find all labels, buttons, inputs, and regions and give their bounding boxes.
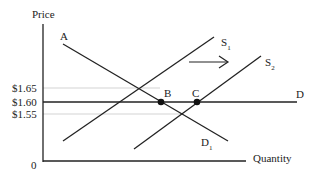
- price-tick-155: $1.55: [12, 108, 37, 120]
- point-c: [194, 99, 201, 106]
- price-tick-160: $1.60: [12, 96, 37, 108]
- shift-right-arrow-icon: [189, 56, 228, 68]
- supply-s1-label: S1: [221, 36, 231, 52]
- point-c-label: C: [192, 87, 199, 99]
- price-tick-165: $1.65: [12, 82, 37, 94]
- x-axis-label: Quantity: [253, 152, 292, 164]
- origin-label: 0: [31, 159, 37, 171]
- demand-curve-d1: [63, 44, 228, 141]
- horizontal-demand-label-d: D: [296, 88, 304, 100]
- demand-start-label-a: A: [60, 30, 68, 42]
- supply-s2-label: S2: [265, 56, 275, 72]
- point-b-label: B: [164, 87, 171, 99]
- demand-d1-label: D1: [201, 136, 213, 152]
- supply-demand-diagram: Price Quantity 0 $1.65 $1.60 $1.55 A D D…: [0, 0, 317, 176]
- y-axis-label: Price: [32, 8, 55, 20]
- point-b: [158, 99, 165, 106]
